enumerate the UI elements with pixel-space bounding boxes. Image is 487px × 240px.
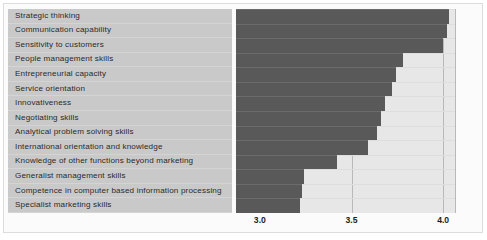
- category-label: Communication capability: [8, 26, 111, 34]
- category-label-row: Communication capability: [8, 24, 232, 39]
- bar: [236, 38, 443, 53]
- bar-row: [236, 53, 403, 68]
- x-tick-label: 4.0: [437, 215, 449, 225]
- bar-row: [236, 126, 377, 141]
- bar-row: [236, 198, 300, 213]
- bar: [236, 96, 385, 111]
- bar-row: [236, 140, 368, 155]
- category-label: Entrepreneurial capacity: [8, 70, 106, 78]
- bar-row: [236, 169, 304, 184]
- category-label-row: Negotiating skills: [8, 111, 232, 126]
- category-label: Sensitivity to customers: [8, 41, 104, 49]
- category-label: Analytical problem solving skills: [8, 128, 134, 136]
- category-label: Generalist management skills: [8, 172, 126, 180]
- category-label: Service orientation: [8, 85, 85, 93]
- category-label-row: Specialist marketing skills: [8, 198, 232, 213]
- category-label-row: Sensitivity to customers: [8, 38, 232, 53]
- category-label: Negotiating skills: [8, 114, 79, 122]
- category-label: People management skills: [8, 55, 113, 63]
- category-label: Strategic thinking: [8, 12, 80, 20]
- category-label-row: Analytical problem solving skills: [8, 126, 232, 141]
- bar-chart: Strategic thinkingCommunication capabili…: [0, 0, 487, 240]
- bar-row: [236, 155, 337, 170]
- category-label-row: Innovativeness: [8, 96, 232, 111]
- bar: [236, 82, 392, 97]
- bar: [236, 155, 337, 170]
- bar: [236, 67, 396, 82]
- plot-area: [236, 9, 456, 213]
- bar-row: [236, 184, 302, 199]
- bar: [236, 198, 300, 213]
- bar: [236, 24, 447, 39]
- bar-row: [236, 67, 396, 82]
- bar-row: [236, 9, 449, 24]
- bar-row: [236, 38, 443, 53]
- bar: [236, 111, 381, 126]
- category-label-row: Competence in computer based information…: [8, 184, 232, 199]
- x-tick-label: 3.0: [254, 215, 266, 225]
- category-label: Innovativeness: [8, 99, 71, 107]
- category-label: Competence in computer based information…: [8, 187, 222, 195]
- bar-row: [236, 111, 381, 126]
- category-label-row: Strategic thinking: [8, 9, 232, 24]
- category-label-row: Generalist management skills: [8, 169, 232, 184]
- bar: [236, 126, 377, 141]
- category-label-row: Service orientation: [8, 82, 232, 97]
- bar-row: [236, 82, 392, 97]
- category-label-row: International orientation and knowledge: [8, 140, 232, 155]
- category-label-row: Entrepreneurial capacity: [8, 67, 232, 82]
- x-tick-label: 3.5: [346, 215, 358, 225]
- category-label: Knowledge of other functions beyond mark…: [8, 157, 193, 165]
- bar-row: [236, 96, 385, 111]
- bar: [236, 9, 449, 24]
- bar: [236, 184, 302, 199]
- category-label-row: People management skills: [8, 53, 232, 68]
- category-label-row: Knowledge of other functions beyond mark…: [8, 155, 232, 170]
- bar: [236, 169, 304, 184]
- category-label: Specialist marketing skills: [8, 201, 112, 209]
- bar: [236, 53, 403, 68]
- bar: [236, 140, 368, 155]
- category-label: International orientation and knowledge: [8, 143, 163, 151]
- x-axis: 3.03.54.0: [236, 215, 466, 229]
- bar-row: [236, 24, 447, 39]
- category-label-panel: Strategic thinkingCommunication capabili…: [8, 9, 232, 213]
